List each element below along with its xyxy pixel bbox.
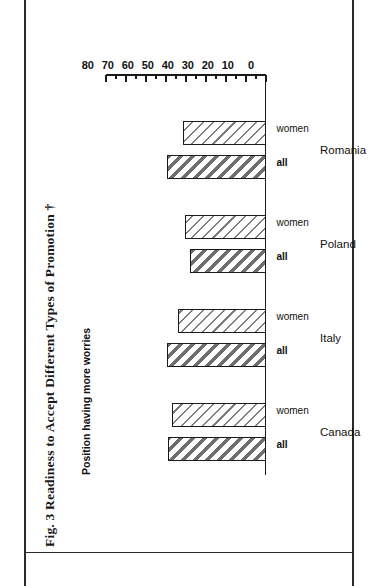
bar-italy-women — [178, 309, 266, 333]
axis-tick-60 — [145, 75, 146, 82]
category-label-poland: Poland — [320, 238, 356, 250]
axis-tick-label-0: 0 — [248, 59, 254, 71]
series-label-romania-all: all — [277, 157, 288, 168]
figure-caption: Fig. 3 Readiness to Accept Different Typ… — [42, 204, 58, 547]
axis-tick-label-20: 20 — [202, 59, 214, 71]
axis-tick-75 — [115, 75, 116, 79]
scanned-page: Fig. 3 Readiness to Accept Different Typ… — [0, 0, 376, 586]
axis-tick-70 — [125, 75, 126, 82]
series-label-italy-women: women — [277, 311, 309, 322]
axis-tick-20 — [225, 75, 226, 82]
category-label-italy: Italy — [320, 332, 341, 344]
bar-canada-all — [168, 437, 266, 461]
bar-poland-all — [190, 249, 266, 273]
axis-tick-25 — [215, 75, 216, 79]
bar-canada-women — [172, 403, 266, 427]
series-label-poland-women: women — [277, 217, 309, 228]
axis-tick-label-70: 70 — [102, 59, 114, 71]
series-label-canada-all: all — [277, 439, 288, 450]
axis-tick-label-30: 30 — [182, 59, 194, 71]
plot-area: 01020304050607080 allwomenCanadaallwomen… — [106, 75, 266, 475]
axis-tick-label-60: 60 — [122, 59, 134, 71]
axis-tick-5 — [255, 75, 256, 79]
axis-tick-label-80: 80 — [82, 59, 94, 71]
category-label-canada: Canada — [320, 426, 360, 438]
axis-tick-45 — [175, 75, 176, 79]
rotated-figure-stage: Fig. 3 Readiness to Accept Different Typ… — [38, 33, 338, 553]
axis-tick-35 — [195, 75, 196, 79]
chart-subtitle: Position having more worries — [80, 328, 92, 475]
axis-tick-0 — [265, 75, 266, 82]
axis-tick-label-40: 40 — [162, 59, 174, 71]
series-label-poland-all: all — [277, 251, 288, 262]
axis-tick-40 — [185, 75, 186, 82]
bar-poland-women — [185, 215, 266, 239]
axis-tick-55 — [155, 75, 156, 79]
series-label-italy-all: all — [277, 345, 288, 356]
bar-romania-all — [167, 155, 266, 179]
page-border-left — [24, 0, 26, 586]
series-label-romania-women: women — [277, 123, 309, 134]
axis-tick-50 — [165, 75, 166, 82]
axis-tick-65 — [135, 75, 136, 79]
axis-tick-80 — [105, 75, 106, 82]
axis-tick-30 — [205, 75, 206, 82]
page-border-right — [352, 0, 354, 586]
category-label-romania: Romania — [320, 144, 366, 156]
axis-tick-15 — [235, 75, 236, 79]
axis-tick-label-50: 50 — [142, 59, 154, 71]
series-label-canada-women: women — [277, 405, 309, 416]
axis-tick-10 — [245, 75, 246, 82]
bar-italy-all — [167, 343, 266, 367]
axis-tick-label-10: 10 — [222, 59, 234, 71]
bar-romania-women — [183, 121, 266, 145]
